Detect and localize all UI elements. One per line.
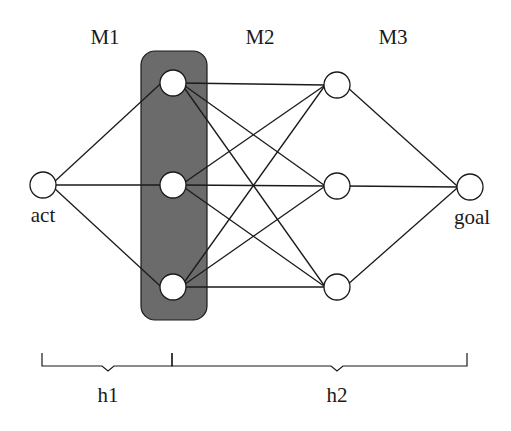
layer-label-m2: M2 <box>245 25 274 49</box>
node-act <box>30 172 56 198</box>
edge-m2c-goal <box>345 187 459 287</box>
edges-layer <box>51 83 459 287</box>
braces-layer: h1h2 <box>42 353 467 407</box>
brace-h2 <box>172 353 467 371</box>
brace-label-h2: h2 <box>327 383 348 407</box>
node-m1b <box>160 172 186 198</box>
node-m2c <box>324 274 350 300</box>
layer-label-m3: M3 <box>378 25 407 49</box>
node-goal <box>457 174 483 200</box>
node-label-goal: goal <box>454 205 490 229</box>
node-m2a <box>324 72 350 98</box>
network-diagram: actgoalM1M2M3 h1h2 <box>0 0 511 431</box>
diagram-canvas: actgoalM1M2M3 h1h2 <box>0 0 511 431</box>
edge-m2b-goal <box>345 186 459 187</box>
brace-h1 <box>42 353 172 371</box>
node-label-act: act <box>31 203 56 227</box>
labels-layer: actgoalM1M2M3 <box>31 25 490 229</box>
brace-label-h1: h1 <box>98 383 119 407</box>
node-m1c <box>160 274 186 300</box>
node-m2b <box>324 173 350 199</box>
edge-m2a-goal <box>345 85 459 187</box>
node-m1a <box>160 70 186 96</box>
layer-label-m1: M1 <box>90 25 119 49</box>
